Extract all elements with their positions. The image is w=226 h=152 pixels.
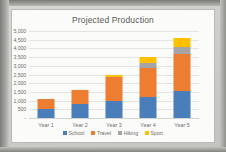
legend-label: School bbox=[69, 130, 85, 136]
y-axis-tick-label: 4,500 bbox=[14, 37, 26, 43]
x-axis-tick-label: Year 3 bbox=[106, 122, 121, 128]
y-axis-tick-label: 2,500 bbox=[14, 72, 26, 78]
screenshot-canvas: Projected Production -5001,0001,5002,000… bbox=[0, 0, 226, 152]
bar-segment[interactable] bbox=[174, 91, 191, 118]
bar-segment[interactable] bbox=[106, 101, 123, 118]
y-axis-tick-label: 500 bbox=[18, 106, 26, 112]
bar-segment[interactable] bbox=[72, 104, 89, 118]
bar-segment[interactable] bbox=[140, 97, 157, 118]
legend-item[interactable]: Sport bbox=[145, 130, 163, 136]
bar-segment[interactable] bbox=[38, 109, 55, 118]
y-axis-tick-label: 2,000 bbox=[14, 80, 26, 86]
legend-swatch-icon bbox=[63, 131, 67, 135]
gridline bbox=[29, 118, 199, 119]
bar-column[interactable] bbox=[72, 90, 89, 118]
x-axis-tick-label: Year 4 bbox=[140, 122, 155, 128]
page-edge-right bbox=[220, 0, 226, 152]
x-axis-tick-label: Year 1 bbox=[38, 122, 53, 128]
plot-area: -5001,0001,5002,0002,5003,0003,5004,0004… bbox=[29, 31, 199, 118]
y-axis-tick-label: 1,500 bbox=[14, 89, 26, 95]
legend-label: Sport bbox=[151, 130, 163, 136]
bar-column[interactable] bbox=[140, 57, 157, 118]
legend-swatch-icon bbox=[118, 131, 122, 135]
bar-segment[interactable] bbox=[38, 99, 55, 109]
x-axis-tick-label: Year 2 bbox=[72, 122, 87, 128]
page-edge-top bbox=[0, 0, 226, 6]
chart-container[interactable]: Projected Production -5001,0001,5002,000… bbox=[11, 9, 215, 143]
bar-column[interactable] bbox=[38, 99, 55, 118]
legend-swatch-icon bbox=[91, 131, 95, 135]
chart-legend: SchoolTravelHikingSport bbox=[12, 130, 214, 136]
bar-segment[interactable] bbox=[106, 77, 123, 100]
bar-segment[interactable] bbox=[140, 68, 157, 97]
legend-label: Hiking bbox=[124, 130, 138, 136]
y-axis-tick-label: 1,000 bbox=[14, 98, 26, 104]
legend-item[interactable]: School bbox=[63, 130, 84, 136]
legend-swatch-icon bbox=[145, 131, 149, 135]
bar-column[interactable] bbox=[174, 38, 191, 118]
legend-item[interactable]: Travel bbox=[91, 130, 111, 136]
y-axis-tick-label: 4,000 bbox=[14, 45, 26, 51]
bar-segment[interactable] bbox=[174, 54, 191, 91]
x-axis-tick-label: Year 5 bbox=[174, 122, 189, 128]
y-axis-tick-label: 3,000 bbox=[14, 63, 26, 69]
y-axis-tick-label: 3,500 bbox=[14, 54, 26, 60]
bar-column[interactable] bbox=[106, 75, 123, 118]
y-axis-tick-label: 5,000 bbox=[14, 28, 26, 34]
y-axis-tick-label: - bbox=[24, 115, 26, 121]
chart-title: Projected Production bbox=[12, 15, 214, 25]
legend-item[interactable]: Hiking bbox=[118, 130, 138, 136]
bar-segment[interactable] bbox=[174, 38, 191, 47]
page-edge-left bbox=[0, 0, 9, 152]
legend-label: Travel bbox=[97, 130, 111, 136]
page-edge-bottom bbox=[0, 147, 226, 152]
bar-series-group bbox=[29, 31, 199, 118]
bar-segment[interactable] bbox=[72, 90, 89, 104]
bar-segment[interactable] bbox=[174, 47, 191, 54]
